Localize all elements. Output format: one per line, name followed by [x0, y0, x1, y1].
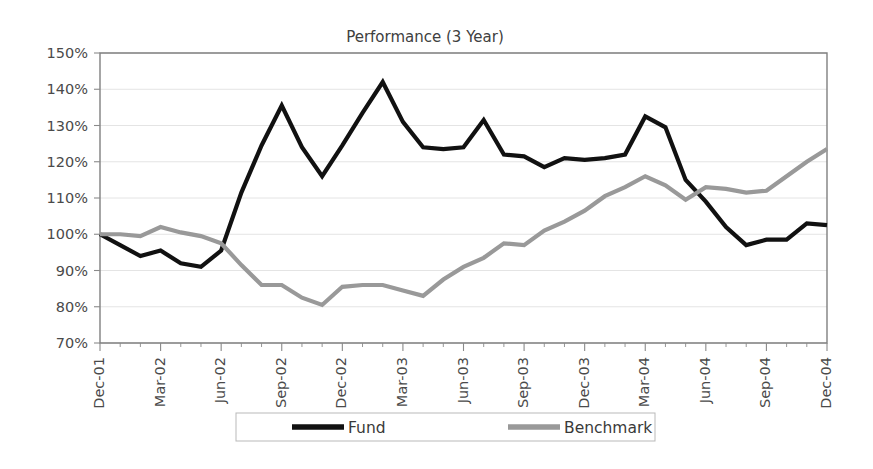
x-tick-label: Jun-03	[455, 357, 471, 404]
x-tick-label: Mar-03	[394, 357, 410, 407]
y-tick-label: 90%	[56, 263, 88, 279]
legend-label-benchmark[interactable]: Benchmark	[564, 419, 652, 437]
x-tick-label: Sep-03	[515, 357, 531, 408]
x-tick-label: Mar-02	[152, 357, 168, 407]
x-tick-label: Dec-03	[576, 357, 592, 409]
x-tick-label: Mar-04	[636, 357, 652, 407]
chart-canvas: 70%80%90%100%110%120%130%140%150% Dec-01…	[0, 0, 873, 469]
y-tick-label: 100%	[47, 226, 88, 242]
y-tick-label: 110%	[47, 190, 88, 206]
legend-label-fund[interactable]: Fund	[348, 419, 386, 437]
grid-lines	[100, 53, 827, 343]
chart-legend: FundBenchmark	[236, 413, 655, 441]
y-tick-label: 120%	[47, 154, 88, 170]
performance-chart: 70%80%90%100%110%120%130%140%150% Dec-01…	[0, 0, 873, 469]
y-tick-label: 80%	[56, 299, 88, 315]
data-series	[100, 82, 827, 305]
series-line-benchmark	[100, 149, 827, 305]
y-axis-tick-labels: 70%80%90%100%110%120%130%140%150%	[47, 45, 88, 351]
x-tick-label: Jun-04	[697, 357, 713, 404]
x-tick-label: Dec-01	[91, 357, 107, 409]
y-tick-label: 70%	[56, 335, 88, 351]
x-tick-label: Jun-02	[212, 357, 228, 404]
y-tick-label: 140%	[47, 81, 88, 97]
x-tick-label: Sep-02	[273, 357, 289, 408]
x-axis-ticks	[100, 343, 827, 351]
y-tick-label: 150%	[47, 45, 88, 61]
y-tick-label: 130%	[47, 118, 88, 134]
x-tick-label: Dec-04	[818, 357, 834, 409]
x-axis-tick-labels: Dec-01Mar-02Jun-02Sep-02Dec-02Mar-03Jun-…	[91, 357, 834, 409]
x-tick-label: Dec-02	[333, 357, 349, 409]
y-axis-ticks	[94, 53, 100, 343]
x-tick-label: Sep-04	[757, 357, 773, 408]
chart-title: Performance (3 Year)	[346, 28, 504, 46]
